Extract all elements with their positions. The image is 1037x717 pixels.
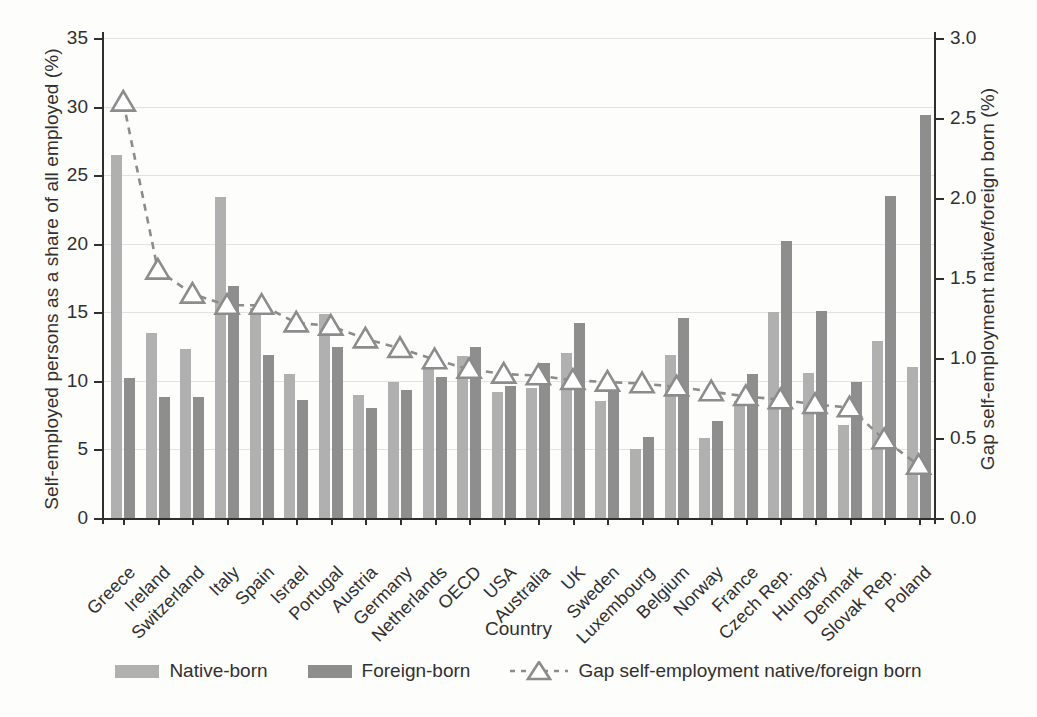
y-tick-label-right: 0.5 [950, 427, 976, 449]
y-tick-right [935, 438, 944, 440]
y-tick-label-left: 5 [77, 438, 88, 460]
chart-figure: Self-employed persons as a share of all … [0, 0, 1037, 717]
gap-marker-triangle [112, 91, 135, 111]
x-tick [884, 518, 886, 525]
x-tick [815, 518, 817, 525]
gap-marker-triangle [319, 315, 342, 335]
gap-marker-triangle [492, 363, 515, 383]
y-tick-label-left: 20 [67, 233, 88, 255]
x-tick [780, 518, 782, 525]
x-tick [227, 518, 229, 525]
y-tick-label-right: 1.0 [950, 347, 976, 369]
gap-line-series [104, 38, 934, 518]
gap-marker-triangle [873, 429, 896, 449]
y-tick-right [935, 198, 944, 200]
gap-marker-triangle [181, 283, 204, 303]
y-tick-label-left: 10 [67, 370, 88, 392]
x-tick [711, 518, 713, 525]
y-axis-label-right: Gap self-employment native/foreign born … [977, 29, 999, 529]
legend-item[interactable]: Gap self-employment native/foreign born [510, 660, 921, 682]
legend-swatch [115, 665, 159, 678]
x-tick [365, 518, 367, 525]
y-tick-left [94, 312, 103, 314]
x-tick [919, 518, 921, 525]
x-tick [331, 518, 333, 525]
gap-marker-triangle [354, 328, 377, 348]
gap-marker-triangle [285, 312, 308, 332]
legend-swatch [308, 665, 352, 678]
x-tick [746, 518, 748, 525]
x-tick [573, 518, 575, 525]
x-tick [123, 518, 125, 525]
y-tick-right [935, 118, 944, 120]
x-tick [607, 518, 609, 525]
gap-marker-triangle [146, 259, 169, 279]
y-tick-right [935, 38, 944, 40]
x-tick [850, 518, 852, 525]
x-tick [469, 518, 471, 525]
gap-line [123, 102, 918, 465]
x-tick [642, 518, 644, 525]
x-tick [400, 518, 402, 525]
x-tick [158, 518, 160, 525]
y-axis-label-left: Self-employed persons as a share of all … [41, 29, 63, 529]
x-tick [262, 518, 264, 525]
y-tick-right [935, 518, 944, 520]
y-tick-left [94, 381, 103, 383]
y-tick-left [94, 38, 103, 40]
y-tick-left [94, 175, 103, 177]
x-tick [677, 518, 679, 525]
x-tick [435, 518, 437, 525]
y-tick-left [94, 449, 103, 451]
y-tick-label-right: 1.5 [950, 267, 976, 289]
x-tick [538, 518, 540, 525]
y-tick-right [935, 278, 944, 280]
gap-marker-triangle [803, 393, 826, 413]
legend-item[interactable]: Foreign-born [308, 660, 471, 682]
y-tick-label-left: 35 [67, 27, 88, 49]
x-tick [192, 518, 194, 525]
y-tick-left [94, 518, 103, 520]
legend-item[interactable]: Native-born [115, 660, 267, 682]
legend-line-marker [510, 661, 568, 681]
x-tick [296, 518, 298, 525]
y-tick-label-left: 30 [67, 96, 88, 118]
gap-marker-triangle [215, 294, 238, 314]
y-tick-left [94, 244, 103, 246]
x-tick-label: Spain [231, 562, 279, 610]
legend-label: Gap self-employment native/foreign born [578, 660, 921, 682]
y-tick-label-right: 0.0 [950, 507, 976, 529]
y-tick-label-right: 3.0 [950, 27, 976, 49]
y-tick-label-left: 25 [67, 164, 88, 186]
chart-legend: Native-bornForeign-bornGap self-employme… [0, 660, 1037, 682]
gap-marker-triangle [907, 454, 930, 474]
plot-area: 05101520253035 0.00.51.01.52.02.53.0 Gre… [104, 38, 934, 518]
y-tick-label-right: 2.5 [950, 107, 976, 129]
x-tick [504, 518, 506, 525]
y-tick-label-left: 15 [67, 301, 88, 323]
y-tick-right [935, 358, 944, 360]
gap-marker-triangle [423, 349, 446, 369]
gap-marker-triangle [596, 371, 619, 391]
gap-marker-triangle [700, 381, 723, 401]
y-tick-label-left: 0 [77, 507, 88, 529]
legend-label: Native-born [169, 660, 267, 682]
legend-label: Foreign-born [362, 660, 471, 682]
y-tick-left [94, 107, 103, 109]
y-tick-label-right: 2.0 [950, 187, 976, 209]
